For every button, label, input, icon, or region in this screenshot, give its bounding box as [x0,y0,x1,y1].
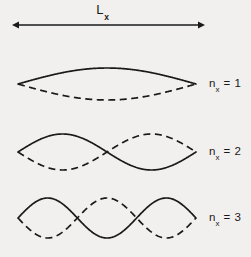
mode-label-equals: = [220,77,235,89]
wave-curve-n3-solid [18,198,196,238]
length-label-base: L [96,2,103,17]
wave-curve-n1-dashed [18,84,196,100]
wave-curve-n2-dashed [18,134,196,170]
wave-curve-n3-dashed [18,198,196,238]
mode-label-base: n [209,77,216,89]
mode-label-value: 1 [234,77,241,89]
mode-label-n2: nx = 2 [209,146,241,160]
mode-label-value: 3 [234,211,241,223]
mode-label-value: 2 [234,145,241,157]
mode-label-base: n [209,145,216,157]
length-label-subscript: x [104,12,109,22]
mode-label-subscript: x [216,85,220,94]
length-arrow [12,22,205,29]
mode-label-subscript: x [216,219,220,228]
length-label: Lx [0,3,205,19]
mode-label-equals: = [220,145,235,157]
mode-label-base: n [209,211,216,223]
arrow-head-left [12,22,19,29]
mode-label-equals: = [220,211,235,223]
mode-label-n3: nx = 3 [209,212,241,226]
wave-curve-n1-solid [18,68,196,84]
mode-label-n1: nx = 1 [209,78,241,92]
wave-curves-group [18,68,196,238]
standing-wave-modes-figure: Lx nx = 1 nx = 2 nx = 3 [0,0,251,257]
arrow-head-right [198,22,205,29]
mode-label-subscript: x [216,153,220,162]
